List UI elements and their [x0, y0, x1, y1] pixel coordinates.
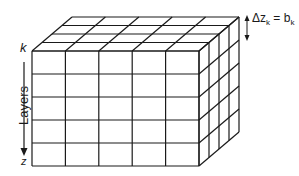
layer-thickness-annotation: Δzk = bk: [252, 11, 294, 27]
equals-b-text: = b: [270, 11, 290, 25]
layers-axis-title: Layers: [16, 81, 31, 131]
subscript-k: k: [290, 18, 294, 27]
depth-axis-label: z: [21, 155, 27, 167]
layer-index-label: k: [20, 40, 27, 55]
down-arrow-icon: [245, 35, 250, 41]
delta-z-text: Δz: [252, 11, 266, 25]
up-arrow-icon: [245, 15, 250, 21]
